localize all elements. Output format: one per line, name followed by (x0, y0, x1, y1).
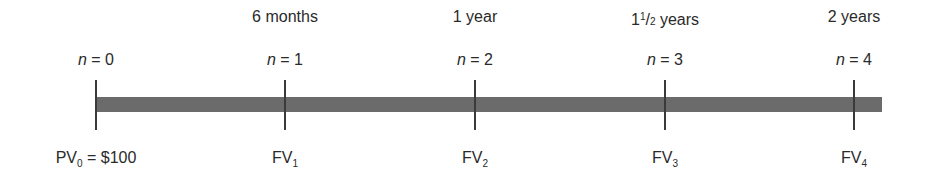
tick-n2 (474, 80, 476, 130)
n-label-3: n = 3 (647, 51, 683, 69)
value-label-4: FV4 (841, 149, 867, 173)
n-label-1: n = 1 (267, 51, 303, 69)
tick-n3 (664, 80, 666, 130)
value-label-0: PV0 = $100 (56, 149, 137, 173)
period-label-1: 6 months (252, 8, 318, 26)
timeline-bar (96, 97, 882, 112)
period-label-4: 2 years (828, 8, 880, 26)
tick-n4 (853, 80, 855, 130)
tick-n1 (284, 80, 286, 130)
period-label-2: 1 year (453, 8, 497, 26)
value-label-2: FV2 (462, 149, 488, 173)
period-label-3: 11/2 years (631, 8, 699, 31)
tick-n0 (95, 80, 97, 130)
n-label-0: n = 0 (78, 51, 114, 69)
value-label-3: FV3 (652, 149, 678, 173)
value-label-1: FV1 (272, 149, 298, 173)
n-label-4: n = 4 (836, 51, 872, 69)
n-label-2: n = 2 (457, 51, 493, 69)
